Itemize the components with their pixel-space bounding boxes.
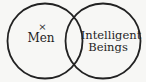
venn-svg: × Men Intelligent Beings <box>0 0 146 82</box>
label-men: Men <box>27 31 54 45</box>
label-beings: Beings <box>88 40 128 54</box>
venn-diagram: × Men Intelligent Beings <box>0 0 146 82</box>
